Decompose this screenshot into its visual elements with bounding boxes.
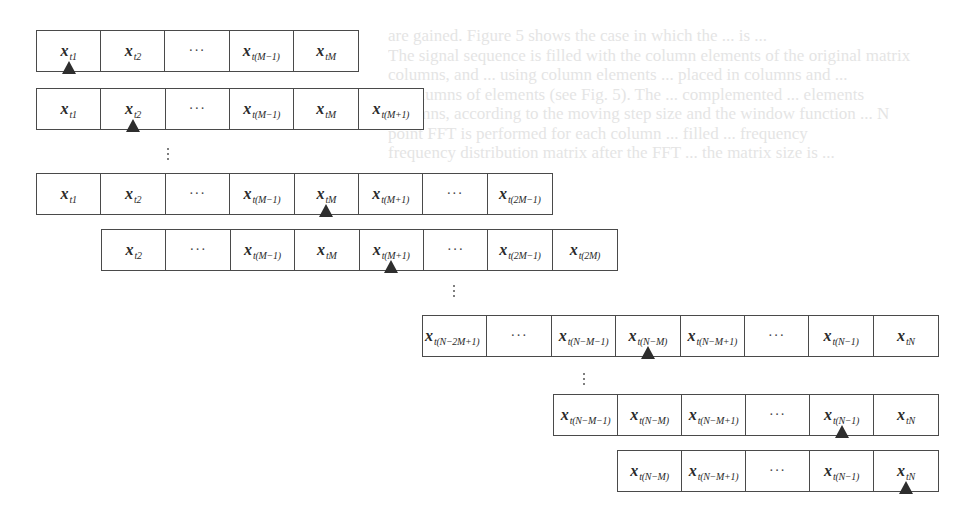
- sample-symbol: x: [630, 462, 638, 480]
- sample-cell: xtM: [294, 89, 358, 129]
- ellipsis-cell: ···: [166, 230, 230, 270]
- sample-cell: xt(M−1): [230, 31, 294, 71]
- sample-symbol: x: [425, 327, 433, 345]
- horizontal-ellipsis: ···: [190, 242, 207, 258]
- sample-cell: xtM: [295, 174, 359, 214]
- sample-cell: xt(2M−1): [488, 230, 552, 270]
- sample-symbol: x: [61, 100, 69, 118]
- horizontal-ellipsis: ···: [447, 242, 464, 258]
- ellipsis-cell: ···: [746, 395, 810, 435]
- sample-index: t(M−1): [252, 194, 280, 205]
- sample-cell: xtN: [874, 451, 938, 491]
- sample-index: t2: [135, 250, 142, 261]
- sample-index: t(M+1): [381, 109, 409, 120]
- sample-symbol: x: [372, 185, 380, 203]
- sample-index: t(N−M): [639, 471, 668, 482]
- sample-symbol: x: [316, 100, 324, 118]
- vertical-ellipsis-3: [582, 373, 586, 385]
- sample-cell: xtN: [874, 395, 938, 435]
- window-row-5: xt(N−2M+1)···xt(N−M−1)xt(N−M)xt(N−M+1)··…: [422, 315, 939, 357]
- sample-symbol: x: [125, 42, 133, 60]
- ellipsis-cell: ···: [165, 31, 229, 71]
- sample-symbol: x: [824, 406, 832, 424]
- sample-cell: xt(N−M): [616, 316, 680, 356]
- window-row-6: xt(N−M−1)xt(N−M)xt(N−M+1)···xt(N−1)xtN: [553, 394, 939, 436]
- window-row-7: xt(N−M)xt(N−M+1)···xt(N−1)xtN: [617, 450, 939, 492]
- sample-index: t(2M−1): [508, 194, 540, 205]
- sample-index: t(N−1): [833, 471, 859, 482]
- sample-index: t(M−1): [252, 51, 280, 62]
- sample-cell: xt(N−M): [618, 451, 682, 491]
- bleed-line: The signal sequence is filled with the c…: [388, 46, 971, 66]
- sample-symbol: x: [61, 42, 69, 60]
- sample-cell: xt2: [102, 230, 166, 270]
- bleed-line: point FFT is performed for each column .…: [388, 124, 971, 144]
- sample-cell: xt(N−M): [618, 395, 682, 435]
- sample-cell: xt(N−M−1): [552, 316, 616, 356]
- sample-symbol: x: [372, 100, 380, 118]
- sample-index: tN: [906, 471, 915, 482]
- background-bleed-text: are gained. Figure 5 shows the case in w…: [388, 26, 971, 163]
- sample-index: t(N−M+1): [698, 471, 739, 482]
- sample-cell: xt(N−M+1): [681, 316, 745, 356]
- sample-cell: xt(M−1): [231, 230, 295, 270]
- sample-symbol: x: [61, 185, 69, 203]
- sample-index: t(N−2M+1): [434, 336, 479, 347]
- window-row-4: xt2···xt(M−1)xtMxt(M+1)···xt(2M−1)xt(2M): [101, 229, 618, 271]
- sample-cell: xt(2M−1): [488, 174, 552, 214]
- sample-symbol: x: [126, 241, 134, 259]
- sample-index: t(2M): [579, 250, 600, 261]
- ellipsis-cell: ···: [423, 174, 487, 214]
- sample-cell: xt2: [101, 31, 165, 71]
- sample-cell: xtM: [295, 230, 359, 270]
- sample-symbol: x: [630, 406, 638, 424]
- horizontal-ellipsis: ···: [189, 43, 206, 59]
- window-position-triangle-icon: [62, 61, 76, 74]
- sample-symbol: x: [125, 100, 133, 118]
- sample-index: t(N−M+1): [696, 336, 737, 347]
- sample-cell: xt(M−1): [230, 89, 294, 129]
- sample-index: tM: [326, 250, 337, 261]
- sample-cell: xt(N−M+1): [682, 451, 746, 491]
- horizontal-ellipsis: ···: [769, 463, 786, 479]
- horizontal-ellipsis: ···: [189, 186, 206, 202]
- sample-cell: xt2: [101, 89, 165, 129]
- ellipsis-cell: ···: [424, 230, 488, 270]
- sample-cell: xt(N−1): [810, 451, 874, 491]
- sample-index: t(M+1): [381, 194, 409, 205]
- sample-cell: xt1: [37, 89, 101, 129]
- window-row-2: xt1xt2···xt(M−1)xtMxt(M+1): [36, 88, 424, 130]
- sample-symbol: x: [687, 327, 695, 345]
- sample-symbol: x: [316, 42, 324, 60]
- sample-cell: xt(M+1): [359, 89, 423, 129]
- window-position-triangle-icon: [319, 204, 333, 217]
- sample-cell: xt(M+1): [360, 230, 424, 270]
- sample-index: t(M−1): [252, 109, 280, 120]
- sample-symbol: x: [561, 406, 569, 424]
- window-row-3: xt1xt2···xt(M−1)xtMxt(M+1)···xt(2M−1): [36, 173, 553, 215]
- sample-symbol: x: [243, 185, 251, 203]
- window-position-triangle-icon: [126, 119, 140, 132]
- sample-cell: xtM: [294, 31, 358, 71]
- sample-symbol: x: [499, 241, 507, 259]
- window-row-1: xt1xt2···xt(M−1)xtM: [36, 30, 359, 72]
- horizontal-ellipsis: ···: [768, 328, 785, 344]
- sample-symbol: x: [499, 185, 507, 203]
- sample-index: t(N−M): [639, 415, 668, 426]
- sample-cell: xt(N−1): [810, 395, 874, 435]
- vertical-ellipsis-1: [166, 148, 170, 160]
- sample-symbol: x: [897, 327, 905, 345]
- ellipsis-cell: ···: [166, 174, 230, 214]
- sample-index: t(N−M+1): [698, 415, 739, 426]
- sample-symbol: x: [317, 241, 325, 259]
- bleed-line: frequency distribution matrix after the …: [388, 143, 971, 163]
- window-position-triangle-icon: [835, 425, 849, 438]
- window-position-triangle-icon: [641, 346, 655, 359]
- sample-index: t(N−M−1): [568, 336, 609, 347]
- sample-cell: xt(N−M+1): [682, 395, 746, 435]
- sample-cell: xt(M−1): [230, 174, 294, 214]
- sample-symbol: x: [689, 462, 697, 480]
- sample-index: t(M+1): [382, 250, 410, 261]
- sample-cell: xt(N−1): [809, 316, 873, 356]
- horizontal-ellipsis: ···: [769, 407, 786, 423]
